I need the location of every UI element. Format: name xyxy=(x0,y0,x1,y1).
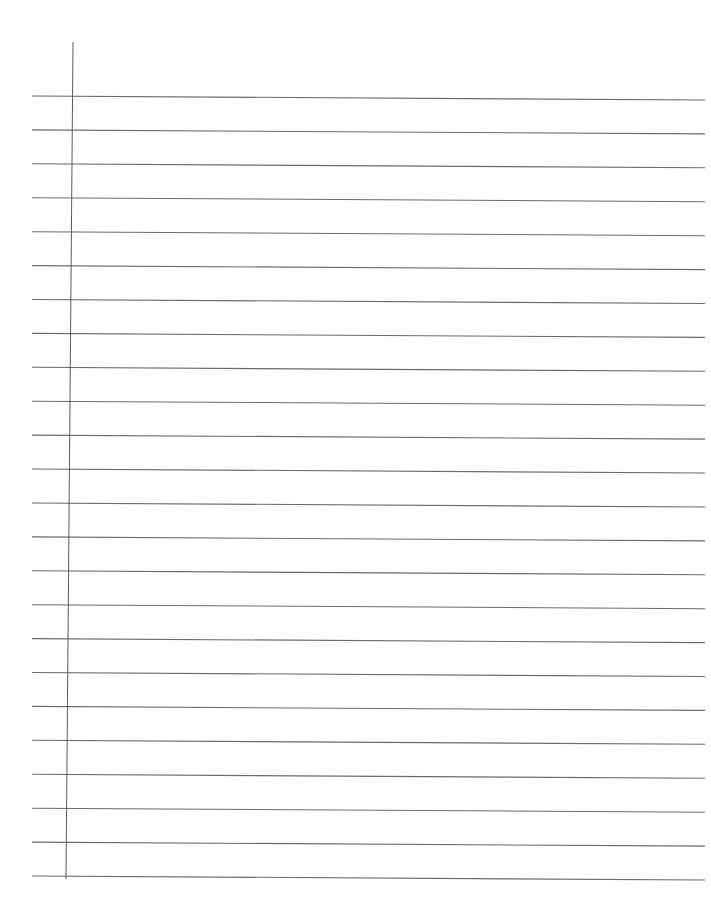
ruled-line xyxy=(32,740,705,744)
ruled-line xyxy=(32,537,705,541)
ruled-line xyxy=(32,232,705,236)
ruled-line xyxy=(32,469,705,473)
ruled-line xyxy=(32,367,705,371)
ruled-line xyxy=(32,808,705,812)
ruled-line xyxy=(32,605,705,609)
ruled-line xyxy=(32,842,705,846)
ruled-line xyxy=(32,571,705,575)
ruled-lines xyxy=(0,0,711,915)
ruled-line xyxy=(32,198,705,202)
ruled-line xyxy=(32,673,705,677)
ruled-line xyxy=(32,164,705,168)
ruled-line xyxy=(32,300,705,304)
ruled-line xyxy=(32,333,705,337)
ruled-line xyxy=(32,639,705,643)
ruled-line xyxy=(32,130,705,134)
ruled-line xyxy=(32,706,705,710)
lined-paper xyxy=(0,0,711,915)
ruled-line xyxy=(32,96,705,100)
margin-line xyxy=(66,42,73,879)
ruled-line xyxy=(32,503,705,507)
ruled-line xyxy=(32,876,705,880)
ruled-line xyxy=(32,435,705,439)
ruled-line xyxy=(32,774,705,778)
ruled-line xyxy=(32,401,705,405)
ruled-line xyxy=(32,266,705,270)
